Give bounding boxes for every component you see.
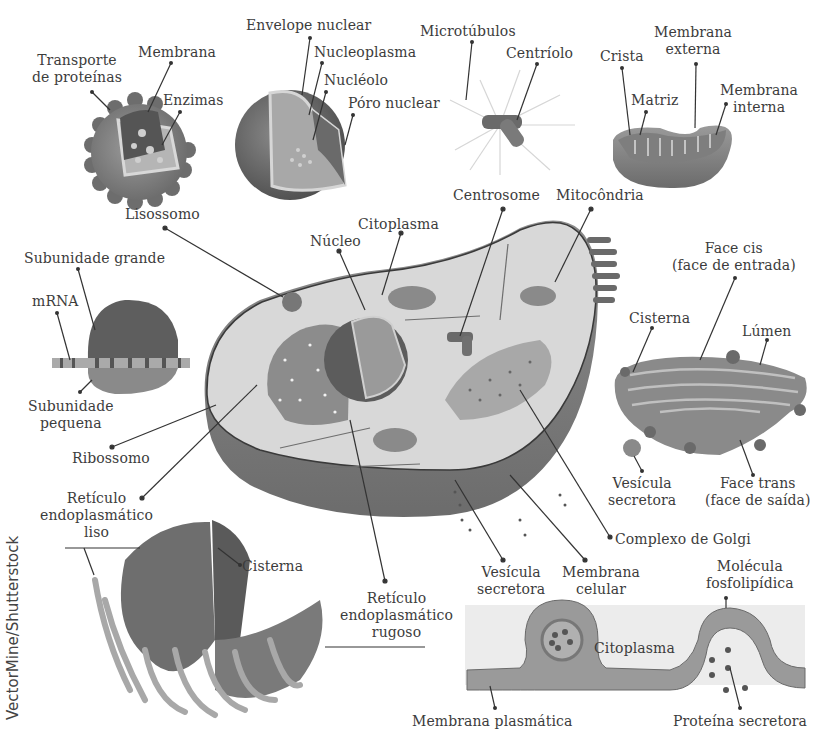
label-line: Retículo	[40, 490, 153, 507]
label-line: Face cis	[672, 240, 796, 257]
label-envelope-nuclear: Envelope nuclear	[246, 17, 371, 34]
label-line: interna	[720, 99, 798, 116]
label-line: de proteínas	[32, 69, 122, 86]
label-line: (face de saída)	[705, 492, 811, 509]
label-citoplasma: Citoplasma	[358, 216, 439, 233]
label-line: Vesícula	[477, 564, 545, 581]
label-membrana-celular: Membrana celular	[562, 564, 640, 598]
label-transporte-de-proteinas: Transporte de proteínas	[32, 52, 122, 86]
label-line: fosfolipídica	[706, 575, 794, 592]
label-line: Vesícula	[608, 475, 676, 492]
label-enzimas: Enzimas	[163, 92, 224, 109]
label-vesicula-secretora-celula: Vesícula secretora	[477, 564, 545, 598]
label-line: Transporte	[32, 52, 122, 69]
label-cisterna-golgi: Cisterna	[629, 310, 690, 327]
label-ribossomo: Ribossomo	[72, 450, 150, 467]
label-membrana-externa: Membrana externa	[654, 24, 732, 58]
label-lumen: Lúmen	[742, 323, 791, 340]
label-line: secretora	[477, 581, 545, 598]
label-subunidade-pequena: Subunidade pequena	[28, 398, 114, 432]
label-line: Membrana	[562, 564, 640, 581]
label-poro-nuclear: Póro nuclear	[348, 95, 440, 112]
label-line: secretora	[608, 492, 676, 509]
label-nucleolo: Nucléolo	[324, 72, 388, 89]
label-line: rugoso	[340, 624, 453, 641]
label-centrosome: Centrosome	[453, 187, 540, 204]
label-line: Retículo	[340, 590, 453, 607]
animal-cell-illustration	[205, 220, 617, 536]
label-line: externa	[654, 41, 732, 58]
label-membrana-plasmatica: Membrana plasmática	[412, 713, 573, 730]
label-reticulo-endoplasmatico-rugoso: Retículo endoplasmático rugoso	[340, 590, 453, 641]
label-line: endoplasmático	[340, 607, 453, 624]
label-proteina-secretora: Proteína secretora	[673, 713, 807, 730]
label-nucleoplasma: Nucleoplasma	[314, 44, 416, 61]
label-matriz: Matriz	[631, 92, 678, 109]
label-line: Molécula	[706, 558, 794, 575]
label-reticulo-endoplasmatico-liso: Retículo endoplasmático liso	[40, 490, 153, 541]
label-line: pequena	[28, 415, 114, 432]
label-face-trans: Face trans (face de saída)	[705, 475, 811, 509]
label-vesicula-secretora-golgi: Vesícula secretora	[608, 475, 676, 509]
ribosome-illustration	[52, 267, 190, 394]
label-complexo-de-golgi: Complexo de Golgi	[615, 531, 751, 548]
label-subunidade-grande: Subunidade grande	[24, 250, 165, 267]
mitochondrion-illustration	[613, 62, 732, 188]
label-line: liso	[40, 524, 153, 541]
label-line: endoplasmático	[40, 507, 153, 524]
cell-diagram: Transporte de proteínas Membrana Enzimas…	[0, 0, 836, 738]
image-credit: VectorMine/Shutterstock	[4, 536, 22, 720]
label-lisossomo: Lisossomo	[125, 206, 200, 223]
label-mitocondria: Mitocôndria	[556, 187, 644, 204]
label-centriolo: Centríolo	[506, 45, 573, 62]
label-line: Membrana	[720, 82, 798, 99]
label-microtubulos: Microtúbulos	[420, 23, 516, 40]
label-membrana-interna: Membrana interna	[720, 82, 798, 116]
label-line: Face trans	[705, 475, 811, 492]
label-crista: Crista	[600, 48, 644, 65]
label-cisterna-reticulo: Cisterna	[242, 558, 303, 575]
label-nucleo: Núcleo	[310, 233, 361, 250]
label-membrana-lisossomo: Membrana	[138, 44, 216, 61]
label-line: celular	[562, 581, 640, 598]
label-molecula-fosfolipidica: Molécula fosfolipídica	[706, 558, 794, 592]
label-mrna: mRNA	[32, 293, 79, 310]
label-face-cis: Face cis (face de entrada)	[672, 240, 796, 274]
label-line: Subunidade	[28, 398, 114, 415]
label-citoplasma-membrana: Citoplasma	[594, 640, 675, 657]
golgi-illustration	[615, 276, 807, 477]
label-line: (face de entrada)	[672, 257, 796, 274]
label-line: Membrana	[654, 24, 732, 41]
